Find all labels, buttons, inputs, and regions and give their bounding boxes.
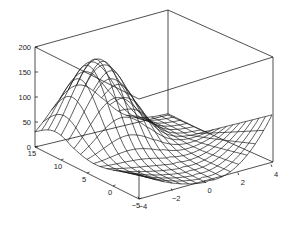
z-tick-label: 50 [23, 118, 31, 127]
tick-mark [271, 165, 272, 168]
tick-mark [238, 173, 239, 176]
x-tick-label: −4 [139, 202, 148, 211]
x-axis-ticks: −4−2024 [138, 165, 278, 212]
x-tick-label: 4 [274, 170, 278, 179]
tick-mark [171, 189, 172, 192]
y-tick-label: 5 [82, 175, 86, 184]
x-tick-label: −2 [172, 194, 181, 203]
x-tick-label: 0 [207, 186, 211, 195]
z-tick-label: 100 [18, 93, 31, 102]
y-tick-label: 0 [108, 188, 112, 197]
x-tick-label: 2 [241, 178, 245, 187]
z-tick-label: 200 [18, 43, 31, 52]
y-tick-label: 15 [28, 149, 36, 158]
tick-mark [113, 185, 116, 186]
y-tick-label: 10 [54, 162, 62, 171]
y-axis-ticks: 151050−5 [28, 146, 142, 210]
tick-mark [61, 159, 64, 160]
surface-plot: 050100150200 151050−5 −4−2024 [0, 0, 295, 226]
tick-mark [87, 172, 90, 173]
mesh-line [42, 72, 175, 131]
mesh-line [151, 117, 255, 144]
z-tick-label: 150 [18, 68, 31, 77]
mesh-line [68, 79, 201, 142]
